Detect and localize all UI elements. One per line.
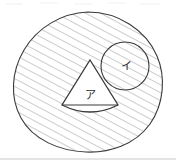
small-circle-label: イ: [121, 60, 132, 73]
triangle-label: ア: [85, 89, 96, 102]
diagram-canvas: ア イ: [0, 0, 176, 168]
figure-root: ア イ: [0, 0, 176, 168]
